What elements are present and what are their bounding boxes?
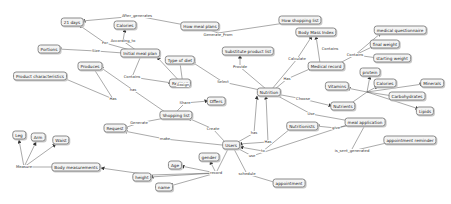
- edge-label: give: [331, 126, 340, 130]
- node-typediet: Type of diet: [165, 56, 195, 65]
- edge-label: Generate_From: [203, 33, 233, 37]
- node-offers: Offers: [207, 97, 226, 106]
- edge-label: Create: [206, 127, 220, 131]
- edge-label: Size: [92, 49, 101, 53]
- edge-label: use: [248, 154, 256, 158]
- node-howshop: How shopping list: [278, 16, 321, 25]
- node-bmi: Body Mass Index: [295, 28, 336, 37]
- edge-label: is_sent_generated: [334, 149, 370, 153]
- node-portions: Portions: [38, 45, 61, 54]
- node-shoplist: Shopping list: [159, 111, 192, 120]
- edge-label: Assign: [176, 83, 189, 87]
- node-apptrem: appointment reminder: [383, 136, 436, 145]
- edge-label: Provide: [232, 65, 247, 69]
- node-minerals: Minerals: [420, 79, 444, 88]
- edge-label: record: [209, 171, 222, 175]
- edge-label: Contains: [123, 75, 141, 79]
- node-startw: starting weight: [373, 54, 411, 63]
- node-arm: Arm: [31, 133, 46, 142]
- edge-label: Generate: [130, 121, 149, 125]
- edge-label: Has: [264, 140, 272, 144]
- node-calories2: Calories: [374, 79, 397, 88]
- node-nutritionist: Nutritionists: [286, 122, 318, 131]
- node-bodymeas: Body measurements: [51, 163, 100, 172]
- concept-map-canvas: 21 daysHow meal plansHow shopping listCa…: [0, 0, 451, 204]
- node-nutrition: Nutrition: [257, 88, 281, 97]
- edge-label: Calculate: [288, 57, 307, 61]
- edge-label: make: [159, 137, 170, 141]
- node-waist: Waist: [52, 136, 69, 145]
- node-medrec: Medical record: [308, 62, 345, 71]
- edge-label: Contains: [321, 47, 339, 51]
- edge-label: Has: [283, 77, 291, 81]
- node-produces: Produces: [77, 62, 102, 71]
- node-age: Age: [168, 161, 182, 170]
- edge-label: Measure: [15, 165, 32, 169]
- edge-label: For: [102, 41, 109, 45]
- edge-label: According_to: [110, 39, 136, 43]
- node-subst: Substitute product list: [222, 47, 274, 56]
- node-users: Users: [222, 141, 240, 150]
- edge-label: has: [250, 131, 258, 135]
- node-mealapp: meal application: [345, 118, 386, 127]
- edge-label: After_generates: [121, 14, 152, 18]
- node-request: Request: [103, 124, 126, 133]
- edge-label: Select: [217, 80, 230, 84]
- node-gender: gender: [199, 153, 220, 162]
- node-calories1: Calories: [114, 21, 137, 30]
- edge-label: has: [129, 88, 137, 92]
- node-vitamins: Vitamins: [325, 82, 349, 91]
- edge-label: Has: [109, 97, 117, 101]
- node-medq: medical questionnaire: [374, 26, 427, 35]
- node-initmeal: Initial meal plan: [120, 49, 160, 58]
- node-appointment: appointment: [273, 179, 306, 188]
- node-finalw: final weight: [370, 40, 400, 49]
- edge-label: Use: [307, 112, 315, 116]
- node-name: name: [155, 183, 173, 192]
- edge-label: schedule: [238, 172, 256, 176]
- edge-label: Contains: [346, 53, 364, 57]
- edge-label: Choose: [295, 97, 310, 101]
- node-prodchar: Product characteristics: [13, 72, 67, 81]
- node-nutrients: Nutrients: [330, 102, 355, 111]
- node-leg: Leg: [12, 131, 26, 140]
- node-howmeal: How meal plans: [180, 22, 219, 31]
- node-protein: protein: [360, 68, 381, 77]
- node-height: height: [132, 173, 151, 182]
- edge-label: Share: [179, 101, 191, 105]
- node-21days: 21 days: [61, 18, 84, 27]
- node-lipids: Lipids: [416, 107, 434, 116]
- node-carbs: Carbohydrates: [389, 92, 426, 101]
- edge-label: to: [261, 149, 266, 153]
